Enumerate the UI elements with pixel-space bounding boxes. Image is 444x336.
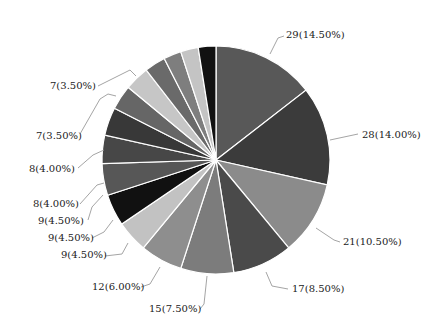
leader-line [98,70,136,86]
leader-line [80,183,104,204]
leader-line [316,228,340,242]
pie-slices [102,46,330,274]
slice-data-label: 21(10.50%) [343,236,402,247]
slice-data-label: 9(4.50%) [38,215,84,226]
slice-data-label: 8(4.00%) [33,198,79,209]
leader-line [266,272,288,289]
leader-line [88,195,103,220]
slice-data-label: 29(14.50%) [286,29,345,40]
slice-data-label: 28(14.00%) [362,129,421,140]
slice-data-label: 17(8.50%) [292,283,344,294]
slice-data-label: 8(4.00%) [29,163,75,174]
leader-line [105,243,128,256]
leader-line [330,134,358,140]
leader-line [270,36,284,54]
slice-data-label: 9(4.50%) [61,249,107,260]
slice-data-label: 7(3.50%) [36,130,82,141]
slice-data-label: 12(6.00%) [92,281,144,292]
slice-data-label: 15(7.50%) [149,303,201,314]
slice-data-label: 7(3.50%) [50,80,96,91]
leader-line [92,220,113,238]
leader-line [78,150,104,168]
pie-chart: 29(14.50%)28(14.00%)21(10.50%)17(8.50%)1… [0,0,444,336]
slice-data-label: 9(4.50%) [48,232,94,243]
